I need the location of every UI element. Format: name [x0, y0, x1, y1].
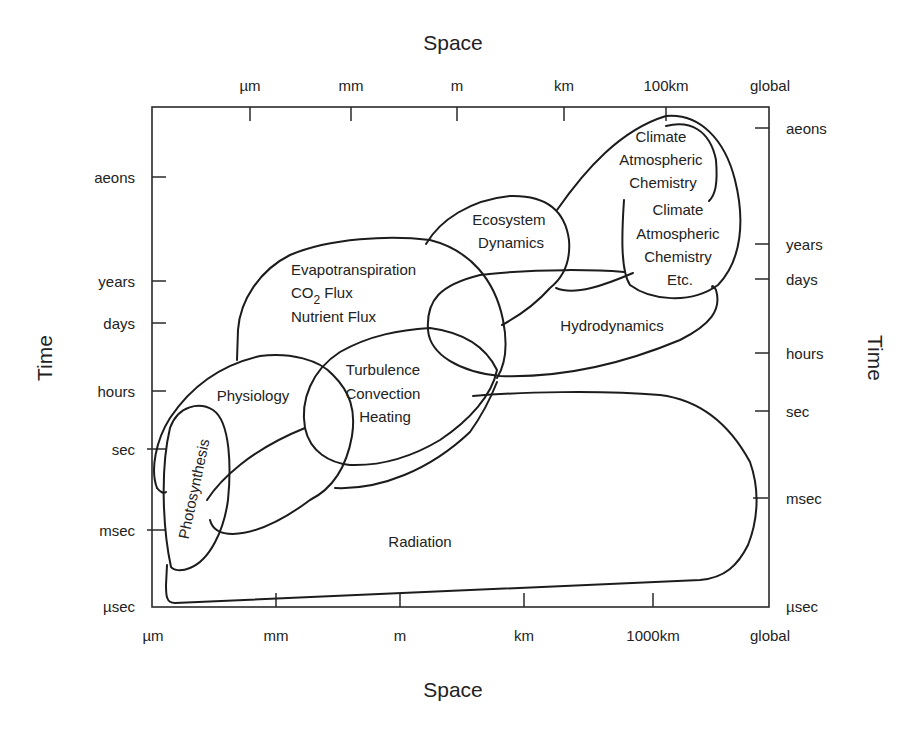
bottom-tick-label: m: [394, 627, 407, 644]
label-line: Climate: [652, 201, 703, 218]
space-time-scale-diagram: Space Space Time Time µm mm m km 100km g…: [0, 0, 917, 739]
flux-text: Flux: [320, 284, 353, 301]
top-tick-label: µm: [239, 77, 260, 94]
left-tick-label: days: [103, 315, 135, 332]
left-axis: aeons years days hours sec msec µsec: [94, 169, 166, 615]
label-line: Chemistry: [629, 174, 697, 191]
top-tick-label: mm: [339, 77, 364, 94]
co2-flux-label: CO2 Flux: [291, 284, 353, 307]
label-line: Turbulence: [346, 361, 421, 378]
label-line: Climate: [635, 128, 686, 145]
right-axis: aeons years days hours sec msec µsec: [753, 120, 827, 615]
top-tick-label: 100km: [643, 77, 688, 94]
ecosystem-lower-link: [556, 273, 633, 291]
right-tick-label: sec: [786, 403, 810, 420]
label-line: Dynamics: [478, 234, 544, 251]
right-tick-label: aeons: [786, 120, 827, 137]
label-line: Etc.: [667, 271, 693, 288]
left-tick-label: aeons: [94, 169, 135, 186]
left-tick-label: years: [98, 273, 135, 290]
bottom-tick-label: 1000km: [626, 627, 679, 644]
right-axis-title: Time: [864, 335, 887, 381]
right-tick-label: msec: [786, 490, 822, 507]
right-tick-label: µsec: [786, 598, 818, 615]
left-tick-label: µsec: [103, 598, 135, 615]
ecosystem-dynamics-label: Ecosystem Dynamics: [472, 211, 550, 251]
bottom-axis-title: Space: [423, 678, 483, 701]
hydrodynamics-label: Hydrodynamics: [560, 317, 663, 334]
photosynthesis-label: Photosynthesis: [175, 437, 213, 540]
top-tick-label: m: [451, 77, 464, 94]
bottom-tick-label: km: [514, 627, 534, 644]
label-line: Convection: [345, 385, 420, 402]
climate-lower-label: Climate Atmospheric Chemistry Etc.: [636, 201, 724, 288]
diagram-canvas: Space Space Time Time µm mm m km 100km g…: [0, 0, 917, 739]
label-line: Heating: [359, 408, 411, 425]
physiology-label: Physiology: [217, 387, 290, 404]
left-tick-label: sec: [112, 441, 136, 458]
label-line: Atmospheric: [636, 225, 720, 242]
region-labels: Climate Atmospheric Chemistry Climate At…: [175, 128, 724, 550]
bottom-tick-label: global: [750, 627, 790, 644]
climate-upper-label: Climate Atmospheric Chemistry: [619, 128, 707, 191]
top-tick-label: global: [750, 77, 790, 94]
nutrient-flux-label: Nutrient Flux: [291, 308, 377, 325]
physiology-inner-line: [207, 428, 305, 500]
co2-text: CO: [291, 284, 314, 301]
evapotranspiration-label-line1: Evapotranspiration: [291, 261, 416, 278]
turbulence-label: Turbulence Convection Heating: [345, 361, 424, 425]
right-tick-label: hours: [786, 345, 824, 362]
right-tick-label: days: [786, 271, 818, 288]
left-tick-label: hours: [97, 383, 135, 400]
bottom-tick-label: µm: [142, 627, 163, 644]
left-tick-label: msec: [99, 522, 135, 539]
label-line: Atmospheric: [619, 151, 703, 168]
left-axis-title: Time: [33, 335, 56, 381]
top-tick-label: km: [554, 77, 574, 94]
top-axis-title: Space: [423, 31, 483, 54]
label-line: Chemistry: [644, 248, 712, 265]
radiation-label: Radiation: [388, 533, 451, 550]
top-axis: µm mm m km 100km global: [239, 77, 790, 121]
label-line: Ecosystem: [472, 211, 545, 228]
right-tick-label: years: [786, 236, 823, 253]
bottom-tick-label: mm: [264, 627, 289, 644]
